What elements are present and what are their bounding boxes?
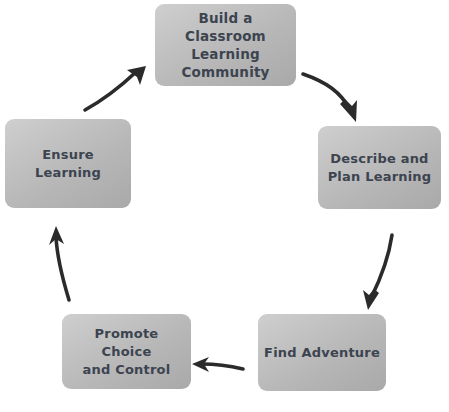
diagram-canvas: Build a Classroom Learning Community Des…	[0, 0, 449, 412]
arrow-ensure-to-build	[85, 66, 146, 110]
node-find-adventure[interactable]: Find Adventure	[258, 314, 386, 391]
arrow-promote-to-ensure	[49, 226, 69, 300]
node-ensure-learning[interactable]: Ensure Learning	[5, 119, 131, 208]
node-ensure-label: Ensure Learning	[5, 146, 131, 182]
arrow-build-to-describe	[303, 74, 357, 122]
node-promote-choice-and-control[interactable]: Promote Choice and Control	[62, 314, 191, 389]
node-find-label: Find Adventure	[258, 344, 386, 362]
arrow-describe-to-find	[363, 235, 392, 310]
arrow-find-to-promote	[192, 357, 243, 372]
node-build-classroom-learning-community[interactable]: Build a Classroom Learning Community	[155, 4, 296, 86]
node-describe-label: Describe and Plan Learning	[322, 150, 438, 186]
node-promote-label: Promote Choice and Control	[62, 325, 191, 379]
node-build-label: Build a Classroom Learning Community	[175, 9, 275, 81]
node-describe-and-plan-learning[interactable]: Describe and Plan Learning	[318, 126, 441, 209]
